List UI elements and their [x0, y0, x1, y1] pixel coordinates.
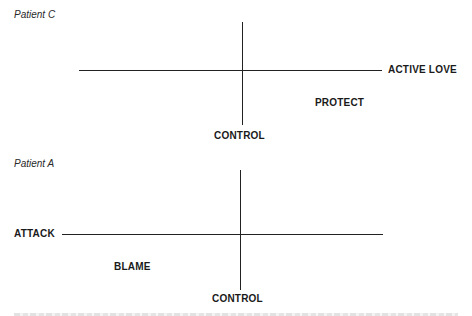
patient-c-vertical-axis [242, 22, 243, 125]
patient-a-vertical-axis [240, 170, 241, 290]
patient-a-control-label: CONTROL [212, 293, 263, 304]
patient-a-title: Patient A [14, 158, 54, 169]
patient-a-attack-label: ATTACK [14, 228, 55, 239]
patient-c-horizontal-axis [79, 70, 382, 71]
patient-c-protect-label: PROTECT [315, 97, 364, 108]
patient-c-title: Patient C [14, 9, 55, 20]
patient-a-horizontal-axis [62, 234, 383, 235]
patient-a-blame-label: BLAME [114, 261, 151, 272]
patient-c-control-label: CONTROL [214, 130, 265, 141]
patient-c-active-love-label: ACTIVE LOVE [388, 64, 457, 75]
